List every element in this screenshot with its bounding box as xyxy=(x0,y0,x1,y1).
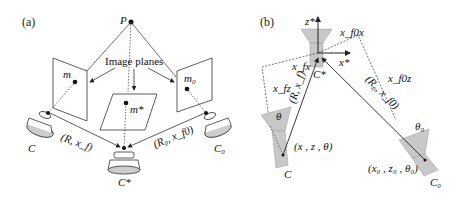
label-camera-c0-b: C₀ xyxy=(430,176,441,188)
label-xf0z: x_f0z xyxy=(387,72,412,84)
label-m0: m₀ xyxy=(184,72,196,84)
camera-c0 xyxy=(203,111,233,140)
label-pose-c: (x , z , θ) xyxy=(294,140,333,153)
label-theta0: θ₀ xyxy=(415,120,424,132)
camera-c-star xyxy=(108,146,140,174)
label-xf0x: x_f0x xyxy=(339,26,364,38)
label-pose-c0: (x₀ , z₀ , θ₀) xyxy=(368,162,418,175)
point-p-label: P xyxy=(119,14,127,26)
label-m: m xyxy=(63,68,71,80)
x-axis-label: x* xyxy=(338,56,350,68)
panel-b: (b) z* x* C* x_fx x_fz x_f0x x_f0z (R, x… xyxy=(260,15,441,188)
panel-a-label: (a) xyxy=(22,15,35,29)
label-xfx: x_fx xyxy=(291,60,310,72)
image-plane-m-star xyxy=(100,94,157,130)
image-plane-m0 xyxy=(177,58,212,112)
ray-p-right xyxy=(131,22,176,77)
label-camera-c-b: C xyxy=(284,168,292,180)
dashed-frame-right xyxy=(318,35,396,120)
label-r-xf: (R, x_f) xyxy=(59,131,95,155)
label-camera-c: C xyxy=(28,142,36,154)
camera-c xyxy=(25,110,55,140)
z-axis-label: z* xyxy=(304,15,315,27)
panel-b-label: (b) xyxy=(260,15,274,29)
figure-canvas: (a) P m m₀ m* Image planes xyxy=(0,0,465,197)
label-camera-c-star: C* xyxy=(118,176,131,188)
label-camera-c0: C₀ xyxy=(214,142,225,154)
image-planes-label: Image planes xyxy=(105,55,163,67)
label-m-star: m* xyxy=(130,103,144,115)
label-theta: θ xyxy=(276,110,282,122)
panel-a: (a) P m m₀ m* Image planes xyxy=(22,14,233,188)
c-star-label: C* xyxy=(313,68,326,80)
